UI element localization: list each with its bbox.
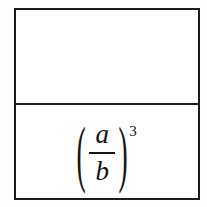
bottom-cell: ( a b ) 3	[16, 105, 198, 198]
fraction-numerator: a	[93, 120, 113, 148]
open-paren-glyph: (	[77, 116, 86, 190]
fraction-denominator: b	[93, 157, 113, 185]
table-row: ( a b ) 3	[16, 105, 198, 198]
table-row	[16, 10, 198, 105]
top-cell	[16, 10, 198, 103]
close-paren-glyph: )	[119, 116, 128, 190]
math-table: ( a b ) 3	[14, 8, 200, 200]
page-canvas: ( a b ) 3	[0, 0, 207, 207]
fraction: a b	[89, 120, 115, 184]
math-expression: ( a b ) 3	[76, 120, 136, 184]
parenthesized-fraction: ( a b )	[76, 120, 128, 184]
exponent: 3	[129, 124, 137, 139]
fraction-bar	[89, 152, 115, 154]
